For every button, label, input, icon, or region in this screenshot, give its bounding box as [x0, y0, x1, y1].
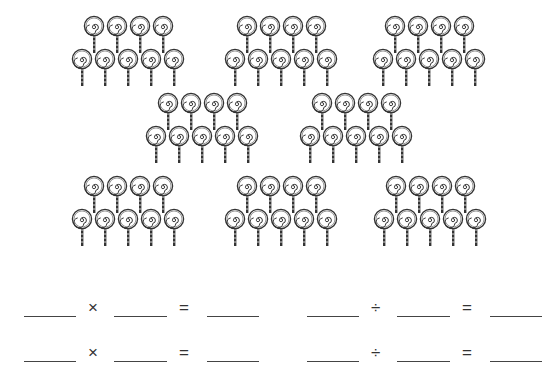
- lollipop-icon: [465, 208, 487, 246]
- lollipop-icon: [163, 208, 185, 246]
- lollipop-group: [68, 175, 193, 255]
- lollipop-icon: [372, 48, 394, 86]
- lollipop-group: [221, 15, 346, 95]
- answer-blank[interactable]: [24, 316, 76, 317]
- lollipop-icon: [71, 208, 93, 246]
- lollipop-icon: [464, 48, 486, 86]
- lollipop-icon: [71, 48, 93, 86]
- lollipop-icon: [442, 208, 464, 246]
- answer-blank[interactable]: [307, 361, 359, 362]
- answer-blank[interactable]: [307, 316, 359, 317]
- lollipop-icon: [140, 48, 162, 86]
- lollipop-icon: [316, 208, 338, 246]
- lollipop-icon: [163, 48, 185, 86]
- lollipop-icon: [441, 48, 463, 86]
- equation-row: ÷=: [307, 298, 547, 322]
- times-sign: ×: [88, 343, 98, 363]
- equals-sign: =: [462, 343, 472, 363]
- lollipop-icon: [94, 208, 116, 246]
- answer-blank[interactable]: [490, 316, 542, 317]
- equals-sign: =: [179, 343, 189, 363]
- lollipop-icon: [293, 48, 315, 86]
- lollipop-group: [369, 15, 494, 95]
- lollipop-icon: [224, 208, 246, 246]
- lollipop-icon: [270, 48, 292, 86]
- answer-blank[interactable]: [114, 316, 167, 317]
- times-sign: ×: [88, 298, 98, 318]
- lollipop-icon: [368, 125, 390, 163]
- lollipop-group: [296, 92, 421, 172]
- divide-sign: ÷: [371, 298, 380, 318]
- lollipop-group: [370, 175, 495, 255]
- equals-sign: =: [179, 298, 189, 318]
- answer-blank[interactable]: [490, 361, 542, 362]
- lollipop-icon: [293, 208, 315, 246]
- equation-row: ×=: [24, 298, 264, 322]
- answer-blank[interactable]: [24, 361, 76, 362]
- lollipop-group: [142, 92, 267, 172]
- lollipop-icon: [270, 208, 292, 246]
- lollipop-icon: [418, 48, 440, 86]
- lollipop-icon: [299, 125, 321, 163]
- lollipop-icon: [345, 125, 367, 163]
- lollipop-icon: [224, 48, 246, 86]
- lollipop-icon: [145, 125, 167, 163]
- equals-sign: =: [462, 298, 472, 318]
- lollipop-group: [68, 15, 193, 95]
- lollipop-icon: [316, 48, 338, 86]
- equation-row: ÷=: [307, 343, 547, 367]
- lollipop-icon: [391, 125, 413, 163]
- answer-blank[interactable]: [207, 316, 259, 317]
- lollipop-icon: [117, 208, 139, 246]
- lollipop-icon: [247, 208, 269, 246]
- lollipop-icon: [94, 48, 116, 86]
- answer-blank[interactable]: [207, 361, 259, 362]
- equation-row: ×=: [24, 343, 264, 367]
- lollipop-icon: [191, 125, 213, 163]
- lollipop-group: [221, 175, 346, 255]
- lollipop-icon: [395, 48, 417, 86]
- lollipop-icon: [373, 208, 395, 246]
- lollipop-icon: [419, 208, 441, 246]
- answer-blank[interactable]: [397, 361, 450, 362]
- divide-sign: ÷: [371, 343, 380, 363]
- lollipop-icon: [214, 125, 236, 163]
- lollipop-icon: [237, 125, 259, 163]
- lollipop-icon: [140, 208, 162, 246]
- answer-blank[interactable]: [397, 316, 450, 317]
- lollipop-icon: [247, 48, 269, 86]
- lollipop-icon: [396, 208, 418, 246]
- lollipop-icon: [168, 125, 190, 163]
- lollipop-icon: [117, 48, 139, 86]
- answer-blank[interactable]: [114, 361, 167, 362]
- lollipop-icon: [322, 125, 344, 163]
